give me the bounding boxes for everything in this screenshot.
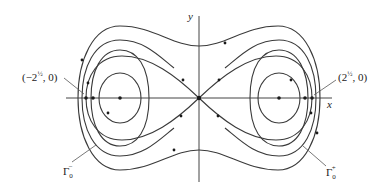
x-axis-label: x <box>326 98 332 110</box>
left-point-label: (−2½, 0) <box>22 70 84 94</box>
svg-text:(−2½, 0): (−2½, 0) <box>22 70 58 84</box>
left-intercept-point <box>84 96 88 100</box>
right-intercept-point-2 <box>310 96 314 100</box>
svg-text:Γ0−: Γ0− <box>63 163 73 180</box>
y-axis-label: y <box>187 10 193 22</box>
right-center-point <box>277 96 281 100</box>
svg-text:Γ0+: Γ0+ <box>326 164 336 181</box>
right-intercept-point <box>303 96 307 100</box>
phase-portrait: y x (−2½, 0) (2½, 0) Γ0− Γ0+ <box>0 0 389 190</box>
left-center-point <box>118 96 122 100</box>
saddle-point <box>197 96 201 100</box>
left-intercept-point-2 <box>91 96 95 100</box>
gamma-minus-label: Γ0− <box>63 145 96 180</box>
svg-text:(2½, 0): (2½, 0) <box>338 70 367 84</box>
right-point-label: (2½, 0) <box>314 70 367 95</box>
